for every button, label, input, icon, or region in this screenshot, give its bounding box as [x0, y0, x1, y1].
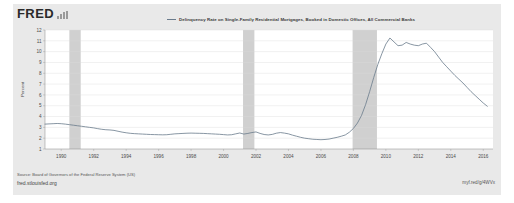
legend-series-label: Delinquency Rate on Single-Family Reside… — [179, 17, 415, 22]
y-tick-label: 8 — [39, 71, 42, 76]
graph-short-url[interactable]: myf.red/g/4WVx — [462, 180, 495, 185]
x-tick-label: 2002 — [251, 154, 262, 159]
bar-chart-icon — [57, 11, 68, 19]
chart-header: FRED Delinquency Rate on Single-Family R… — [13, 4, 501, 25]
y-tick-label: 6 — [39, 93, 42, 98]
y-tick-label: 5 — [39, 103, 42, 108]
x-tick-label: 1990 — [56, 154, 67, 159]
y-tick-label: 2 — [39, 136, 42, 141]
y-tick-label: 10 — [36, 49, 42, 54]
x-tick-label: 2000 — [218, 154, 229, 159]
y-axis-label: Percent — [20, 81, 25, 97]
x-tick-label: 1994 — [121, 154, 132, 159]
x-tick-label: 2014 — [446, 154, 457, 159]
y-tick-label: 12 — [36, 28, 42, 33]
y-tick-label: 7 — [39, 82, 42, 87]
y-tick-label: 1 — [39, 147, 42, 152]
line-chart-svg: 123456789101112 199019921994199619982000… — [13, 25, 501, 170]
y-tick-label: 11 — [37, 39, 42, 44]
x-tick-label: 2012 — [413, 154, 424, 159]
chart-plot-area: 123456789101112 199019921994199619982000… — [13, 25, 501, 170]
fred-logo: FRED — [17, 7, 54, 21]
y-axis-ticks: 123456789101112 — [36, 28, 45, 152]
x-tick-label: 2004 — [283, 154, 294, 159]
fred-site-url[interactable]: fred.stlouisfed.org — [17, 180, 57, 186]
legend-line-swatch — [167, 19, 176, 20]
chart-footer: Source: Board of Governors of the Federa… — [13, 172, 501, 195]
x-axis-ticks: 1990199219941996199820002002200420062008… — [56, 149, 489, 159]
x-tick-label: 1998 — [186, 154, 197, 159]
x-tick-label: 2010 — [381, 154, 392, 159]
x-tick-label: 1992 — [89, 154, 100, 159]
x-tick-label: 2016 — [478, 154, 489, 159]
y-tick-label: 9 — [39, 60, 42, 65]
source-note: Source: Board of Governors of the Federa… — [17, 172, 135, 177]
fred-chart-card: FRED Delinquency Rate on Single-Family R… — [13, 4, 501, 195]
x-tick-label: 2006 — [316, 154, 327, 159]
x-tick-label: 1996 — [154, 154, 165, 159]
x-tick-label: 2008 — [348, 154, 359, 159]
y-tick-label: 4 — [39, 114, 42, 119]
y-tick-label: 3 — [39, 125, 42, 130]
